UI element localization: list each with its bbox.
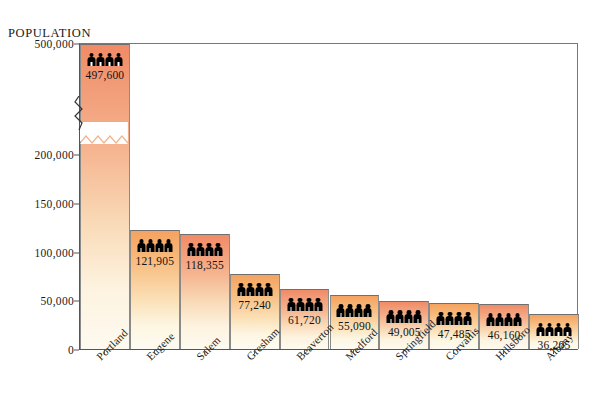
bar-salem[interactable]: 118,355 [180,234,230,349]
person-icon [87,53,95,66]
person-icon [464,312,472,325]
bar-value-label: 61,720 [288,314,321,326]
person-icon [364,304,372,317]
person-icon [205,243,213,256]
person-icon [337,304,345,317]
person-icon [164,239,172,252]
people-icon-group [387,310,422,323]
person-icon [146,239,154,252]
bar-portland[interactable]: 497,600 [80,44,130,349]
person-icon [396,310,404,323]
person-icon [287,298,295,311]
person-icon [437,312,445,325]
person-icon [155,239,163,252]
x-axis-tick-mark [353,350,354,354]
bar-value-label: 118,355 [186,259,224,271]
person-icon [405,310,413,323]
person-icon [537,323,545,336]
person-icon [314,298,322,311]
y-axis-tick-label: 50,000 [41,295,74,307]
y-axis-tick-label: 100,000 [35,247,74,259]
person-icon [187,243,195,256]
person-icon [546,323,554,336]
people-icon-group [487,313,522,326]
x-axis-tick-mark [503,350,504,354]
person-icon [355,304,363,317]
person-icon [414,310,422,323]
bar-value-label: 121,905 [135,255,174,267]
person-icon [214,243,222,256]
person-icon [196,243,204,256]
person-icon [105,53,113,66]
x-axis-tick-mark [553,350,554,354]
x-axis-tick-mark [304,350,305,354]
bar-value-label: 497,600 [86,69,125,81]
people-icon-group [237,283,272,296]
x-axis-tick-mark [154,350,155,354]
population-bar-chart: POPULATION TOTAL POPULATION: 3,132,000 (… [0,0,607,416]
y-axis-tick-label: 500,000 [35,38,74,50]
people-icon-group [137,239,172,252]
person-icon [455,312,463,325]
x-axis-tick-mark [254,350,255,354]
x-axis-tick-mark [453,350,454,354]
plot-area: 497,600121,905118,35577,24061,72055,0904… [79,43,578,350]
people-icon-group [287,298,322,311]
people-icon-group [187,243,222,256]
person-icon [246,283,254,296]
bar-eugene[interactable]: 121,905 [130,230,180,349]
people-icon-group [437,312,472,325]
person-icon [137,239,145,252]
person-icon [264,283,272,296]
person-icon [496,313,504,326]
person-icon [514,313,522,326]
x-axis-tick-mark [204,350,205,354]
person-icon [387,310,395,323]
y-axis-tick-label: 150,000 [35,198,74,210]
person-icon [96,53,104,66]
person-icon [487,313,495,326]
person-icon [505,313,513,326]
person-icon [114,53,122,66]
people-icon-group [337,304,372,317]
bars-container: 497,600121,905118,35577,24061,72055,0904… [80,44,577,349]
person-icon [237,283,245,296]
person-icon [255,283,263,296]
people-icon-group [87,53,122,66]
person-icon [305,298,313,311]
person-icon [346,304,354,317]
person-icon [446,312,454,325]
x-axis-tick-mark [104,350,105,354]
person-icon [296,298,304,311]
y-axis-tick-label: 200,000 [35,149,74,161]
bar-value-label: 77,240 [238,299,271,311]
x-axis-tick-mark [403,350,404,354]
